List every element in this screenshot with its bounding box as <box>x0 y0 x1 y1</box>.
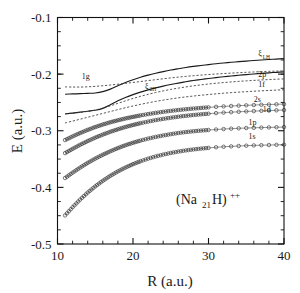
curve-label-text: 2p <box>258 70 266 79</box>
x-tick-label: 40 <box>278 248 291 263</box>
curve-label-2s: 2s <box>254 95 261 104</box>
system-formula-annotation: (Na 21 H) ++ <box>176 190 240 210</box>
plot-area-border <box>58 18 285 245</box>
x-tick-label: 20 <box>127 248 140 263</box>
curve-label-text: ξ <box>145 82 149 91</box>
curve-label-text: 1g <box>82 72 90 81</box>
plot-frame <box>58 18 285 245</box>
energy-curve-chart: 10203040-0.1-0.2-0.3-0.4-0.5 ξLHξ2H1g2p1… <box>0 0 300 293</box>
y-axis-title: E (a.u.) <box>9 109 26 154</box>
y-tick-label: -0.1 <box>31 10 52 25</box>
curve-labels: ξLHξ2H1g2p1f2s1d1p1s <box>82 49 271 141</box>
curve-label-2p: 2p <box>258 70 266 79</box>
curve-label-text: 1f <box>258 80 265 89</box>
curve-label-xi_LH: ξLH <box>258 49 270 60</box>
curve-label-1g: 1g <box>82 72 90 81</box>
x-tick-label: 10 <box>51 248 64 263</box>
curve-label-1p: 1p <box>249 118 257 127</box>
curve-label-1d: 1d <box>263 105 271 114</box>
curve-label-text: ξ <box>258 49 262 58</box>
formula-mid: H) <box>212 192 227 208</box>
curve-1s <box>63 143 285 217</box>
axis-ticks <box>58 18 285 245</box>
y-tick-label: -0.5 <box>31 237 52 252</box>
formula-subscript: 21 <box>202 200 211 210</box>
curve-label-text: 2s <box>254 95 261 104</box>
curve-line <box>65 71 284 87</box>
curve-label-subscript: LH <box>263 54 270 60</box>
y-tick-label: -0.4 <box>31 180 52 195</box>
curve-label-subscript: 2H <box>149 86 156 92</box>
curve-label-text: 1s <box>249 132 256 141</box>
formula-open: (Na <box>176 192 198 208</box>
curve-label-1s: 1s <box>249 132 256 141</box>
curve-label-text: 1d <box>263 105 271 114</box>
y-tick-label: -0.3 <box>31 123 52 138</box>
y-tick-label: -0.2 <box>31 67 52 82</box>
curve-1g <box>65 71 284 87</box>
formula-superscript: ++ <box>230 190 240 200</box>
curve-label-1f: 1f <box>258 80 265 89</box>
curve-label-xi_2H: ξ2H <box>145 82 156 93</box>
x-tick-label: 30 <box>202 248 215 263</box>
curve-label-text: 1p <box>249 118 257 127</box>
x-axis-title: R (a.u.) <box>147 273 192 290</box>
